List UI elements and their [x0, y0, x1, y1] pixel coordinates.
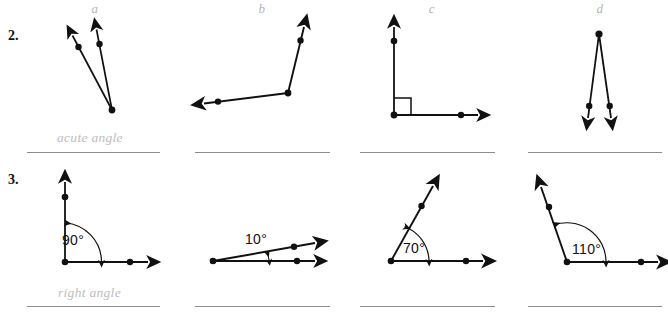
answer-line-3c[interactable] — [360, 306, 495, 307]
angle-label-3a: 90° — [62, 232, 84, 248]
figure-2c — [358, 22, 486, 122]
angle-label-3b: 10° — [245, 231, 267, 247]
angle-label-3c: 70° — [403, 240, 425, 256]
answer-line-2b[interactable] — [195, 152, 330, 153]
figure-3c — [378, 182, 496, 274]
worksheet-page: a b c d 2. — [0, 0, 668, 314]
column-letter-b: b — [247, 1, 277, 17]
column-letter-c: c — [417, 1, 447, 17]
sample-answer-row-2: acute angle — [57, 130, 123, 146]
figure-3d — [503, 182, 663, 274]
column-letter-a: a — [80, 1, 110, 17]
angle-label-3d: 110° — [572, 241, 601, 257]
column-letter-d: d — [585, 1, 615, 17]
answer-line-2c[interactable] — [360, 152, 495, 153]
figure-2b — [198, 22, 313, 117]
figure-3a — [38, 178, 163, 273]
problem-number-2: 2. — [8, 28, 19, 44]
answer-line-2a[interactable] — [27, 152, 160, 153]
figure-2d — [562, 26, 657, 126]
figure-2a — [55, 20, 155, 125]
problem-number-3: 3. — [8, 172, 19, 188]
answer-line-2d[interactable] — [528, 152, 662, 153]
sample-answer-row-3: right angle — [58, 285, 121, 301]
answer-line-3b[interactable] — [195, 306, 330, 307]
answer-line-3a[interactable] — [27, 306, 160, 307]
answer-line-3d[interactable] — [528, 306, 662, 307]
